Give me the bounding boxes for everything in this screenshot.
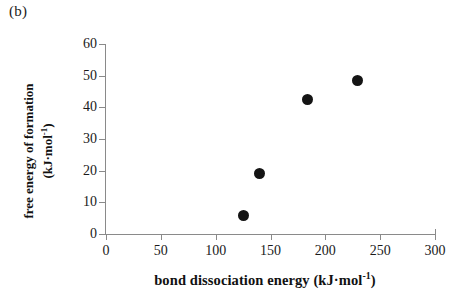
x-axis-title-suffix: ) — [371, 272, 376, 288]
x-axis-tick — [106, 234, 107, 240]
y-axis-title: free energy of formation (kJ·mol-1) — [19, 51, 57, 251]
y-axis-tick — [99, 171, 105, 172]
x-axis-tick — [271, 234, 272, 240]
x-axis-tick-label: 50 — [134, 243, 188, 259]
data-point — [254, 168, 265, 179]
x-axis-tick-label: 300 — [408, 243, 462, 259]
y-axis-title-superscript: -1 — [39, 128, 49, 135]
y-axis-tick-label: 60 — [65, 37, 97, 51]
y-axis-tick — [99, 44, 105, 45]
x-axis-title-text: bond dissociation energy (kJ·mol — [154, 272, 362, 288]
y-axis-tick — [99, 234, 105, 235]
y-axis-title-prefix: (kJ·mol — [40, 135, 55, 178]
y-axis-tick-label: 0 — [65, 227, 97, 241]
y-axis-tick — [99, 107, 105, 108]
x-axis-tick — [325, 234, 326, 240]
y-axis-tick — [99, 139, 105, 140]
data-point — [302, 94, 313, 105]
x-axis-tick-label: 150 — [244, 243, 298, 259]
y-axis-title-line-2: (kJ·mol-1) — [38, 51, 57, 251]
y-axis-tick-label: 30 — [65, 132, 97, 146]
data-point — [352, 75, 363, 86]
y-axis-title-line-1: free energy of formation — [19, 51, 38, 251]
x-axis-tick-label: 200 — [298, 243, 352, 259]
y-axis-tick — [99, 76, 105, 77]
y-axis-tick-label: 20 — [65, 164, 97, 178]
figure-panel: (b) 0102030405060 050100150200250300 bon… — [0, 0, 464, 304]
y-axis-tick-label: 10 — [65, 195, 97, 209]
plot-area — [106, 44, 435, 234]
x-axis-tick-label: 100 — [189, 243, 243, 259]
panel-label: (b) — [9, 2, 27, 20]
x-axis-title: bond dissociation energy (kJ·mol-1) — [80, 272, 450, 289]
y-axis-tick — [99, 202, 105, 203]
x-axis-tick — [161, 234, 162, 240]
x-axis-tick-label: 250 — [353, 243, 407, 259]
y-axis-tick-label: 50 — [65, 69, 97, 83]
x-axis-tick — [435, 234, 436, 240]
y-axis-title-suffix: ) — [40, 123, 55, 127]
x-axis-tick — [216, 234, 217, 240]
x-axis-tick — [380, 234, 381, 240]
x-axis-tick-label: 0 — [79, 243, 133, 259]
y-axis-tick-label: 40 — [65, 100, 97, 114]
data-point — [238, 210, 249, 221]
x-axis-title-superscript: -1 — [362, 270, 370, 281]
